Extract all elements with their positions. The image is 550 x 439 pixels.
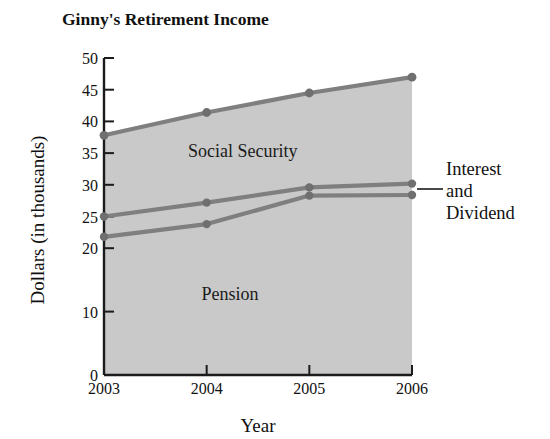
x-tick-label-2006: 2006 [396,380,428,397]
pension-point-2004 [202,220,210,228]
y-tick-label-40: 40 [82,113,98,130]
chart-container: Ginny's Retirement Income Dollars (in th… [0,0,550,439]
interest-dividend-point-2004 [202,198,210,206]
interest-dividend-point-2005 [305,183,313,191]
x-tick-label-2004: 2004 [191,380,223,397]
pension-point-2003 [100,233,108,241]
y-tick-label-45: 45 [82,82,98,99]
band-label-pension: Pension [201,284,258,304]
interest-dividend-point-2006 [408,179,416,187]
pension-point-2006 [408,191,416,199]
y-tick-label-30: 30 [82,177,98,194]
y-tick-label-10: 10 [82,304,98,321]
x-axis-label: Year [240,415,276,436]
pension-point-2005 [305,191,313,199]
callout-line-and: and [446,181,473,201]
social-security-point-2006 [408,73,417,82]
y-axis-label: Dollars (in thousands) [27,136,49,305]
x-tick-label-2005: 2005 [293,380,325,397]
social-security-point-2004 [202,108,211,117]
y-tick-label-25: 25 [82,209,98,226]
social-security-point-2003 [100,131,109,140]
callout-line-dividend: Dividend [446,203,516,223]
x-tick-label-2003: 2003 [88,380,120,397]
social-security-point-2005 [305,89,314,98]
y-tick-label-35: 35 [82,145,98,162]
band-label-social-security: Social Security [188,141,297,161]
y-tick-label-50: 50 [82,50,98,67]
retirement-income-area-chart: Ginny's Retirement Income Dollars (in th… [0,0,550,439]
interest-dividend-point-2003 [100,212,108,220]
y-tick-label-20: 20 [82,240,98,257]
chart-title: Ginny's Retirement Income [62,9,269,29]
callout-line-interest: Interest [446,159,502,179]
